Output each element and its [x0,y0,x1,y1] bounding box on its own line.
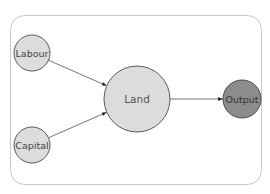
node-capital-label: Capital [15,140,48,151]
node-capital: Capital [14,127,50,163]
node-output: Output [223,80,261,118]
node-output-label: Output [226,94,259,105]
node-labour: Labour [14,35,50,71]
node-land-label: Land [124,93,150,105]
caption-fragment: g [107,0,114,1]
node-labour-label: Labour [16,48,49,59]
node-land: Land [104,66,170,132]
production-diagram: g Labour Capital Land Output [0,0,270,194]
